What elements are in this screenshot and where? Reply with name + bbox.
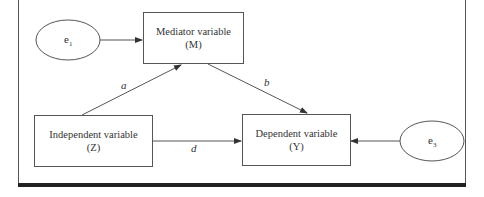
svg-text:Mediator variable: Mediator variable xyxy=(156,26,231,37)
path-label-d: d xyxy=(191,142,197,154)
edge-b-mediator-to-dependent xyxy=(208,64,307,113)
dependent-node: Dependent variable (Y) xyxy=(243,115,351,166)
svg-text:Independent variable: Independent variable xyxy=(49,129,138,140)
svg-text:Dependent variable: Dependent variable xyxy=(256,128,338,139)
error-node-e3: e3 xyxy=(400,121,464,161)
error-node-e1: e1 xyxy=(36,20,100,60)
svg-text:(Y): (Y) xyxy=(289,141,304,153)
path-label-a: a xyxy=(121,79,127,91)
mediation-diagram: e1 Mediator variable (M) Independent var… xyxy=(0,0,484,197)
svg-text:(M): (M) xyxy=(185,39,202,51)
mediator-node: Mediator variable (M) xyxy=(144,13,244,64)
edge-a-independent-to-mediator xyxy=(82,65,181,115)
frame-bottom-rule xyxy=(18,183,466,187)
path-label-b: b xyxy=(264,76,270,88)
independent-node: Independent variable (Z) xyxy=(35,116,153,167)
svg-text:(Z): (Z) xyxy=(87,142,101,154)
